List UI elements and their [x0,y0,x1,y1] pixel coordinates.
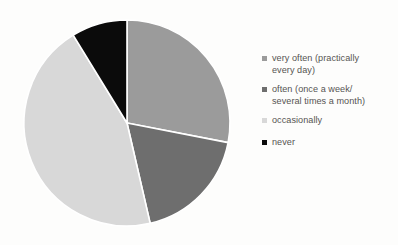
pie-slice[interactable] [127,20,230,143]
pie-chart-figure: very often (practically every day) often… [0,0,398,245]
legend-label-very-often: very often (practically every day) [272,52,359,77]
legend-swatch-never [262,140,267,145]
legend-swatch-often [262,87,267,92]
legend-item-never[interactable]: never [262,136,396,148]
legend-item-occasionally[interactable]: occasionally [262,114,396,126]
legend-label-occasionally: occasionally [272,114,322,126]
legend-label-never: never [272,136,295,148]
legend-swatch-very-often [262,56,267,61]
legend-item-often[interactable]: often (once a week/ several times a mont… [262,83,396,108]
legend-label-often: often (once a week/ several times a mont… [272,83,365,108]
chart-legend: very often (practically every day) often… [262,52,396,154]
pie-slice-group [24,20,230,226]
legend-item-very-often[interactable]: very often (practically every day) [262,52,396,77]
legend-swatch-occasionally [262,118,267,123]
